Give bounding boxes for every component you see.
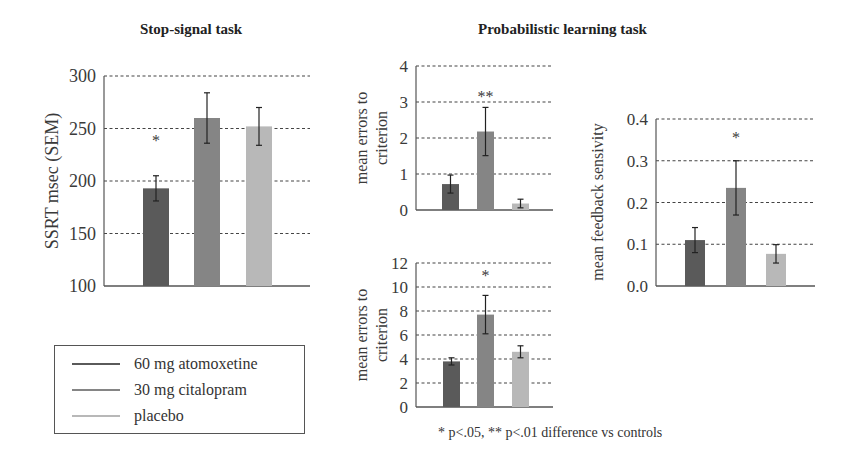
legend-swatch-citalopram — [72, 389, 120, 391]
bar — [443, 361, 460, 407]
y-tick-label: 300 — [69, 66, 96, 86]
legend-item-placebo: placebo — [55, 403, 304, 429]
legend-label: placebo — [134, 407, 184, 425]
y-tick-label: 4 — [400, 350, 409, 369]
bar — [512, 352, 529, 407]
significance-marker: * — [152, 132, 160, 149]
y-tick-label: 0 — [400, 398, 409, 417]
y-tick-label: 200 — [69, 171, 96, 191]
legend: 60 mg atomoxetine 30 mg citalopram place… — [54, 345, 305, 434]
legend-swatch-atomoxetine — [72, 363, 120, 365]
y-tick-label: 8 — [400, 302, 409, 321]
significance-marker: ** — [478, 88, 494, 105]
y-tick-label: 0.0 — [627, 277, 648, 296]
y-tick-label: 12 — [391, 254, 408, 273]
y-tick-label: 100 — [69, 276, 96, 296]
y-tick-label: 6 — [400, 326, 409, 345]
legend-item-atomoxetine: 60 mg atomoxetine — [55, 351, 304, 377]
y-tick-label: 0.1 — [627, 235, 648, 254]
y-tick-label: 250 — [69, 119, 96, 139]
y-tick-label: 150 — [69, 224, 96, 244]
legend-swatch-placebo — [72, 415, 120, 417]
y-axis-label: mean errors to — [353, 92, 370, 184]
y-axis-label: criterion — [373, 308, 390, 362]
y-tick-label: 2 — [400, 374, 409, 393]
y-axis-label: criterion — [373, 111, 390, 165]
legend-label: 60 mg atomoxetine — [134, 355, 258, 373]
y-tick-label: 4 — [400, 57, 409, 76]
legend-item-citalopram: 30 mg citalopram — [55, 377, 304, 403]
y-tick-label: 0.4 — [627, 110, 649, 129]
y-tick-label: 0.2 — [627, 194, 648, 213]
legend-label: 30 mg citalopram — [134, 381, 247, 399]
significance-marker: * — [732, 129, 740, 146]
significance-footnote: * p<.05, ** p<.01 difference vs controls — [438, 425, 662, 441]
y-tick-label: 1 — [400, 165, 409, 184]
bar — [246, 126, 272, 286]
y-axis-label: SSRT msec (SEM) — [42, 113, 63, 250]
y-tick-label: 2 — [400, 129, 409, 148]
y-tick-label: 0 — [400, 201, 409, 220]
bar — [143, 188, 169, 286]
y-tick-label: 10 — [391, 278, 408, 297]
y-tick-label: 3 — [400, 93, 409, 112]
y-tick-label: 0.3 — [627, 152, 648, 171]
y-axis-label: mean feedback sensivity — [589, 123, 607, 280]
significance-marker: * — [482, 267, 490, 284]
y-axis-label: mean errors to — [353, 289, 370, 381]
